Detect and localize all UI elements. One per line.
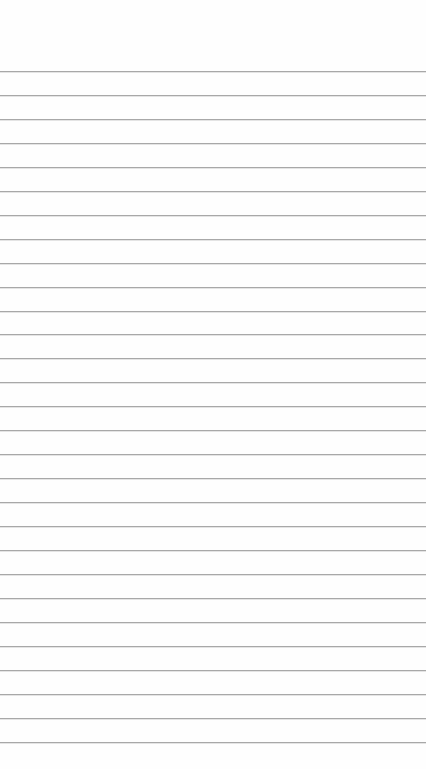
ruled-line xyxy=(0,670,426,671)
ruled-line xyxy=(0,358,426,359)
ruled-line xyxy=(0,263,426,264)
ruled-line xyxy=(0,382,426,383)
ruled-line xyxy=(0,143,426,144)
ruled-line xyxy=(0,215,426,216)
ruled-line xyxy=(0,742,426,743)
ruled-line xyxy=(0,526,426,527)
ruled-line xyxy=(0,167,426,168)
ruled-line xyxy=(0,502,426,503)
ruled-line xyxy=(0,71,426,72)
lined-paper-sheet xyxy=(0,0,426,769)
ruled-line xyxy=(0,574,426,575)
ruled-line xyxy=(0,718,426,719)
ruled-line xyxy=(0,478,426,479)
ruled-line xyxy=(0,334,426,335)
ruled-line xyxy=(0,622,426,623)
ruled-line xyxy=(0,406,426,407)
ruled-line xyxy=(0,311,426,312)
ruled-line xyxy=(0,287,426,288)
ruled-line xyxy=(0,598,426,599)
ruled-line xyxy=(0,119,426,120)
ruled-line xyxy=(0,191,426,192)
ruled-line xyxy=(0,694,426,695)
ruled-line xyxy=(0,646,426,647)
ruled-line xyxy=(0,95,426,96)
ruled-line xyxy=(0,239,426,240)
ruled-line xyxy=(0,430,426,431)
ruled-line xyxy=(0,550,426,551)
ruled-line xyxy=(0,454,426,455)
